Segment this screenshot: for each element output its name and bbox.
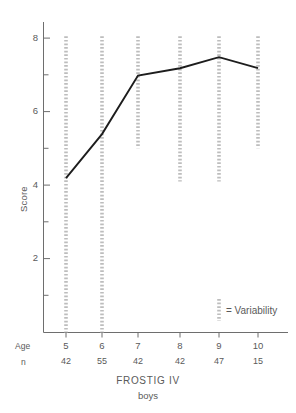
chart-subtitle: boys (0, 390, 296, 401)
legend-label: = Variability (226, 305, 277, 316)
y-tick-label-6: 6 (22, 105, 38, 116)
y-tick-label-8: 8 (22, 32, 38, 43)
x-tick-label-age-6: 6 (90, 340, 114, 351)
n-value-age-8: 42 (168, 356, 192, 366)
x-tick-label-age-5: 5 (54, 340, 78, 351)
variability-bars (66, 36, 258, 332)
chart-canvas (0, 0, 296, 413)
score-line-series (66, 57, 258, 178)
n-value-age-10: 15 (246, 356, 270, 366)
x-tick-label-age-8: 8 (168, 340, 192, 351)
n-value-age-9: 47 (207, 356, 231, 366)
x-tick-label-age-10: 10 (246, 340, 270, 351)
chart-figure: 8 6 4 2 Score Age n 5 6 7 8 9 10 42 55 4… (0, 0, 296, 413)
x-tick-label-age-7: 7 (126, 340, 150, 351)
x-tick-label-age-9: 9 (207, 340, 231, 351)
x-row-label-n: n (21, 357, 26, 367)
y-axis-title: Score (18, 186, 29, 212)
n-value-age-5: 42 (54, 356, 78, 366)
n-value-age-7: 42 (126, 356, 150, 366)
y-tick-label-2: 2 (22, 252, 38, 263)
chart-title: FROSTIG IV (0, 375, 296, 386)
x-row-label-age: Age (15, 341, 30, 351)
x-axis-ticks (66, 333, 258, 338)
n-value-age-6: 55 (90, 356, 114, 366)
